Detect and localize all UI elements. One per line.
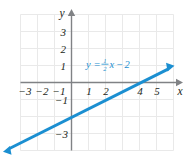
equation-variable: x — [109, 59, 115, 70]
y-tick-label: 3 — [60, 26, 67, 38]
y-tick-label: 2 — [61, 43, 67, 55]
equation-annotation: y = 1 2 x − 2 — [85, 57, 131, 72]
coordinate-plane-figure: y x −3 −2 −1 1 2 4 5 3 2 1 −1 −3 y — [0, 0, 193, 159]
y-tick-label: −1 — [55, 94, 68, 106]
y-axis-arrowhead — [68, 9, 75, 16]
x-tick-label: 4 — [137, 85, 143, 97]
equation-equals-sign: = — [94, 59, 101, 70]
graph-canvas: y x −3 −2 −1 1 2 4 5 3 2 1 −1 −3 y — [0, 0, 193, 159]
equation-lhs: y — [85, 59, 91, 70]
x-tick-label: 2 — [103, 85, 109, 97]
x-tick-labels: −3 −2 −1 1 2 4 5 — [19, 85, 161, 97]
x-tick-label: 5 — [154, 85, 160, 97]
x-tick-label: −2 — [36, 85, 49, 97]
equation-constant: 2 — [125, 59, 131, 70]
x-axis-label: x — [176, 85, 183, 97]
x-tick-label: −3 — [19, 85, 32, 97]
y-axis-label: y — [58, 7, 65, 20]
y-tick-label: 1 — [61, 60, 67, 72]
equation-fraction-numerator: 1 — [103, 57, 106, 64]
y-tick-label: −3 — [55, 128, 68, 140]
equation-operator: − — [116, 59, 123, 70]
x-tick-label: 1 — [86, 85, 92, 97]
